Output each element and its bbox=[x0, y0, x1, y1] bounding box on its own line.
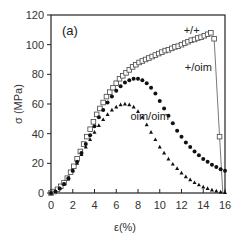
data-point bbox=[127, 103, 131, 107]
data-point bbox=[188, 177, 192, 181]
data-point bbox=[180, 171, 184, 175]
data-point bbox=[140, 78, 144, 82]
data-point bbox=[132, 77, 136, 81]
data-point bbox=[114, 89, 118, 93]
data-point bbox=[171, 121, 175, 125]
data-point bbox=[217, 134, 222, 139]
data-point bbox=[193, 180, 197, 184]
data-point bbox=[104, 94, 109, 99]
plot-border bbox=[51, 15, 225, 193]
data-point bbox=[153, 92, 157, 96]
data-point bbox=[93, 124, 97, 128]
data-point bbox=[119, 103, 123, 107]
y-tick-label: 60 bbox=[32, 98, 44, 110]
data-point bbox=[149, 86, 153, 90]
y-tick-label: 20 bbox=[32, 157, 44, 169]
data-point bbox=[171, 162, 175, 166]
data-point bbox=[219, 167, 223, 171]
x-tick-label: 2 bbox=[70, 199, 76, 211]
annotation-oim: oim/oim bbox=[130, 110, 169, 122]
data-point bbox=[145, 123, 149, 127]
data-point bbox=[149, 130, 153, 134]
data-point bbox=[209, 31, 214, 36]
data-point bbox=[206, 186, 210, 190]
data-point bbox=[101, 117, 105, 121]
data-point bbox=[132, 105, 136, 109]
data-point bbox=[180, 135, 184, 139]
stress-strain-chart: 0246810121416020406080100120 (a) +/+ +/o… bbox=[0, 0, 241, 242]
data-point bbox=[119, 84, 123, 88]
data-point bbox=[93, 130, 97, 134]
data-point bbox=[175, 166, 179, 170]
data-point bbox=[91, 120, 96, 125]
data-point bbox=[214, 189, 218, 193]
y-tick-label: 120 bbox=[26, 9, 44, 21]
y-tick-label: 100 bbox=[26, 39, 44, 51]
x-tick-label: 6 bbox=[113, 199, 119, 211]
data-point bbox=[166, 157, 170, 161]
data-point bbox=[101, 100, 106, 105]
data-point bbox=[210, 163, 214, 167]
y-tick-label: 40 bbox=[32, 128, 44, 140]
data-point bbox=[107, 90, 112, 95]
data-point bbox=[127, 78, 131, 82]
data-point bbox=[223, 169, 227, 173]
data-point bbox=[136, 77, 140, 81]
x-axis-title: ε(%) bbox=[114, 221, 136, 233]
data-point bbox=[201, 185, 205, 189]
data-point bbox=[175, 129, 179, 133]
x-tick-label: 8 bbox=[135, 199, 141, 211]
data-point bbox=[193, 149, 197, 153]
x-tick-label: 10 bbox=[154, 199, 166, 211]
data-point bbox=[101, 108, 105, 112]
panel-label: (a) bbox=[62, 23, 78, 38]
plot-frame bbox=[51, 15, 225, 193]
x-tick-label: 16 bbox=[219, 199, 231, 211]
data-point bbox=[123, 102, 127, 106]
data-point bbox=[162, 151, 166, 155]
data-point bbox=[158, 145, 162, 149]
x-tick-label: 12 bbox=[175, 199, 187, 211]
annotation-het: +/oim bbox=[185, 61, 212, 73]
data-point bbox=[184, 141, 188, 145]
y-tick-label: 80 bbox=[32, 68, 44, 80]
y-tick-label: 0 bbox=[38, 187, 44, 199]
data-point bbox=[111, 85, 116, 90]
data-point bbox=[153, 137, 157, 141]
data-point bbox=[188, 145, 192, 149]
data-point bbox=[114, 81, 119, 86]
x-tick-label: 4 bbox=[91, 199, 97, 211]
data-point bbox=[197, 183, 201, 187]
y-axis-title: σ (MPa) bbox=[12, 84, 24, 124]
data-point bbox=[210, 188, 214, 192]
data-point bbox=[110, 95, 114, 99]
data-point bbox=[97, 115, 101, 119]
data-point bbox=[97, 123, 101, 127]
data-point bbox=[106, 101, 110, 105]
data-point bbox=[197, 153, 201, 157]
data-point bbox=[123, 80, 127, 84]
data-point bbox=[158, 99, 162, 103]
data-point bbox=[212, 36, 217, 41]
data-point bbox=[88, 133, 92, 137]
data-point bbox=[110, 108, 114, 112]
data-point bbox=[114, 105, 118, 109]
x-tick-label: 14 bbox=[197, 199, 209, 211]
data-point bbox=[219, 190, 223, 194]
data-point bbox=[88, 127, 93, 132]
data-point bbox=[214, 165, 218, 169]
data-point bbox=[145, 81, 149, 85]
data-point bbox=[184, 174, 188, 178]
series---oim bbox=[49, 77, 227, 195]
data-point bbox=[106, 112, 110, 116]
data-point bbox=[206, 160, 210, 164]
annotation-wt: +/+ bbox=[184, 24, 200, 36]
x-tick-label: 0 bbox=[48, 199, 54, 211]
data-point bbox=[223, 190, 227, 194]
data-point bbox=[201, 157, 205, 161]
